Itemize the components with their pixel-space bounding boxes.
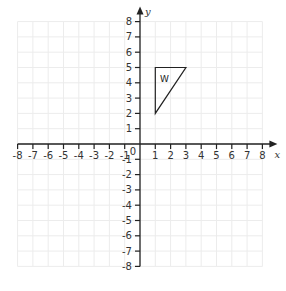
y-tick-label: -6 <box>122 230 132 241</box>
y-tick-label: -5 <box>122 215 132 226</box>
x-tick-label: -3 <box>89 150 99 161</box>
x-axis-arrow-icon <box>269 141 277 148</box>
x-tick-label: 5 <box>213 150 219 161</box>
y-tick-label: -2 <box>122 169 132 180</box>
x-tick-label: -5 <box>59 150 69 161</box>
y-axis-arrow-icon <box>137 7 144 15</box>
y-tick-label: 8 <box>126 16 132 27</box>
y-tick-label: -7 <box>122 246 132 257</box>
y-tick-label: 7 <box>126 31 132 42</box>
y-tick-label: 2 <box>126 108 132 119</box>
x-tick-label: -6 <box>43 150 53 161</box>
y-tick-label: -4 <box>122 200 132 211</box>
y-tick-label: -8 <box>122 261 132 272</box>
x-tick-label: 2 <box>167 150 173 161</box>
y-axis-label: y <box>144 6 151 17</box>
x-tick-label: 8 <box>259 150 265 161</box>
origin-label: 0 <box>130 146 136 157</box>
x-tick-label: 1 <box>152 150 158 161</box>
y-tick-label: 3 <box>126 93 132 104</box>
x-tick-label: -7 <box>28 150 38 161</box>
x-tick-label: -4 <box>74 150 84 161</box>
x-tick-label: -2 <box>104 150 114 161</box>
y-tick-label: 1 <box>126 123 132 134</box>
x-tick-label: 6 <box>229 150 235 161</box>
y-tick-label: 4 <box>126 77 132 88</box>
x-tick-label: 3 <box>183 150 189 161</box>
x-tick-label: 4 <box>198 150 204 161</box>
shape-label: W <box>160 74 169 84</box>
y-tick-label: -3 <box>122 184 132 195</box>
x-axis-label: x <box>274 149 280 160</box>
x-tick-label: -8 <box>13 150 23 161</box>
x-tick-label: 7 <box>244 150 250 161</box>
y-tick-label: 6 <box>126 47 132 58</box>
coordinate-plane: xy-8-7-6-5-4-3-2-112345678-8-7-6-5-4-3-2… <box>0 0 286 291</box>
axes: xy-8-7-6-5-4-3-2-112345678-8-7-6-5-4-3-2… <box>13 6 281 272</box>
y-tick-label: 5 <box>126 62 132 73</box>
